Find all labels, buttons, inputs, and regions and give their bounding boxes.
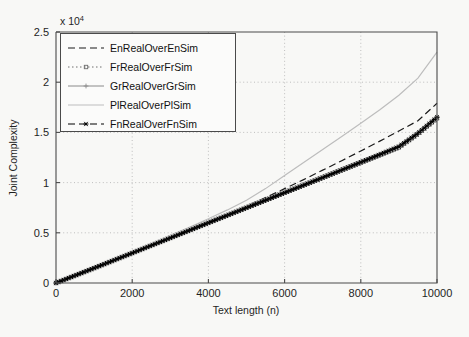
- x-tick-label: 8000: [349, 287, 373, 299]
- x-tick-label: 4000: [196, 287, 220, 299]
- y-tick-label: 0.5: [34, 227, 49, 239]
- y-tick-label: 1.5: [34, 126, 49, 138]
- y-tick-label: 0: [43, 277, 49, 289]
- y-tick-label: 1: [43, 177, 49, 189]
- chart-figure: 020004000600080001000000.511.522.5 x 104…: [0, 0, 469, 337]
- x-tick-label: 2000: [120, 287, 144, 299]
- y-tick-label: 2.5: [34, 26, 49, 38]
- legend-label: GrRealOverGrSim: [110, 80, 196, 92]
- joint-complexity-line-chart: 020004000600080001000000.511.522.5 x 104…: [0, 0, 469, 337]
- y-tick-label: 2: [43, 76, 49, 88]
- x-axis-title: Text length (n): [213, 304, 280, 316]
- legend-label: FrRealOverFrSim: [110, 61, 193, 73]
- x-tick-label: 6000: [272, 287, 296, 299]
- x-tick-label: 0: [53, 287, 59, 299]
- x-tick-label: 10000: [422, 287, 453, 299]
- legend-label: PlRealOverPlSim: [110, 99, 191, 111]
- legend-label: FnRealOverFnSim: [110, 118, 197, 130]
- legend-label: EnRealOverEnSim: [110, 42, 198, 54]
- y-axis-title: Joint Complexity: [7, 119, 19, 197]
- legend: EnRealOverEnSimFrRealOverFrSimGrRealOver…: [61, 34, 236, 132]
